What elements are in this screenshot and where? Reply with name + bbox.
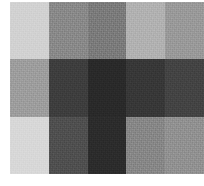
image-canvas bbox=[0, 0, 204, 186]
patch-r3c3 bbox=[88, 117, 127, 174]
patch-r2c4 bbox=[126, 59, 165, 116]
grayscale-patch-grid bbox=[10, 2, 204, 174]
patch-r2c2 bbox=[49, 59, 88, 116]
patch-r3c5 bbox=[165, 117, 204, 174]
patch-r1c1 bbox=[10, 2, 49, 59]
patch-r3c4 bbox=[126, 117, 165, 174]
patch-r3c2 bbox=[49, 117, 88, 174]
patch-r2c5 bbox=[165, 59, 204, 116]
patch-r1c5 bbox=[165, 2, 204, 59]
patch-r1c2 bbox=[49, 2, 88, 59]
patch-r1c3 bbox=[88, 2, 127, 59]
patch-r3c1 bbox=[10, 117, 49, 174]
patch-r2c3 bbox=[88, 59, 127, 116]
patch-r2c1 bbox=[10, 59, 49, 116]
patch-r1c4 bbox=[126, 2, 165, 59]
